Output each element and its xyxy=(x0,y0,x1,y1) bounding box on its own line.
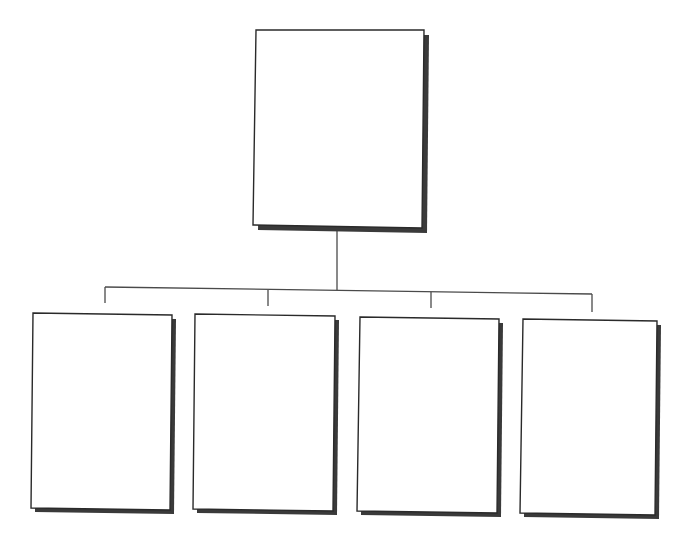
child-box-4 xyxy=(520,319,661,519)
root-box-frame xyxy=(253,30,424,228)
child-box-3 xyxy=(357,317,503,517)
org-chart-canvas xyxy=(0,0,692,540)
child-box-2-frame xyxy=(193,314,335,511)
child-box-3-frame xyxy=(357,317,499,513)
org-boxes xyxy=(31,30,661,519)
child-box-1-frame xyxy=(31,313,172,510)
child-box-1 xyxy=(31,313,176,514)
child-box-4-frame xyxy=(520,319,657,515)
org-chart xyxy=(0,0,692,540)
connector-lines xyxy=(105,228,592,312)
child-box-2 xyxy=(193,314,339,515)
root-box xyxy=(253,30,429,233)
connector-bus xyxy=(105,287,592,294)
